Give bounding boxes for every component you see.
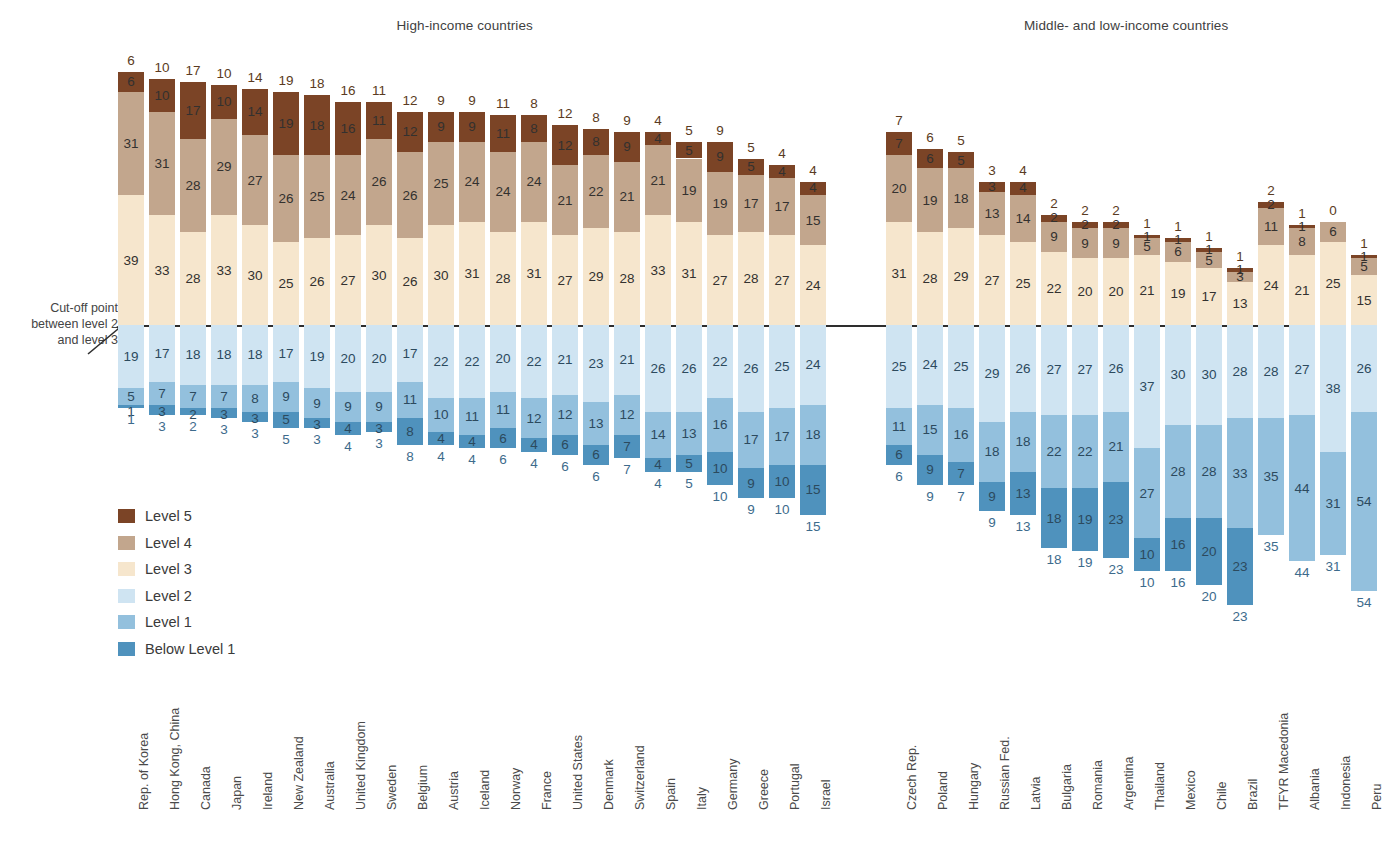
bar-bottom-value: 23 <box>1103 562 1129 577</box>
legend-item-l0[interactable]: Below Level 1 <box>118 636 235 663</box>
bar-segment-l5: 5 <box>676 142 702 159</box>
bar-top-value: 1 <box>1165 219 1191 234</box>
bar-segment-l5: 19 <box>273 92 299 155</box>
segment-value: 21 <box>1103 440 1129 454</box>
bar-segment-l0: 16 <box>1165 518 1191 571</box>
segment-value: 16 <box>335 122 361 136</box>
bar-segment-l2: 17 <box>273 325 299 382</box>
segment-value: 4 <box>459 435 485 449</box>
segment-value: 1 <box>1227 263 1253 277</box>
bar-segment-l0: 4 <box>428 432 454 445</box>
bar-segment-l0: 3 <box>366 422 392 432</box>
country-label: Hungary <box>967 763 981 810</box>
bar-segment-l4: 24 <box>459 142 485 222</box>
segment-value: 22 <box>1041 445 1067 459</box>
segment-value: 3 <box>149 405 175 419</box>
segment-value: 9 <box>1103 237 1129 251</box>
bar-segment-l2: 26 <box>1351 325 1377 412</box>
country-label: Belgium <box>416 765 430 810</box>
bar-segment-l4: 24 <box>521 142 547 222</box>
segment-value: 20 <box>366 352 392 366</box>
segment-value: 6 <box>583 448 609 462</box>
segment-value: 28 <box>180 272 206 286</box>
bar-segment-l0: 23 <box>1103 482 1129 559</box>
segment-value: 4 <box>1010 181 1036 195</box>
bar-segment-l2: 18 <box>180 325 206 385</box>
bar-segment-l4: 29 <box>211 119 237 216</box>
bar-bottom-value: 4 <box>335 439 361 454</box>
country-label: Israel <box>819 779 833 810</box>
bar-segment-l3: 25 <box>1010 242 1036 325</box>
segment-value: 25 <box>304 190 330 204</box>
segment-value: 18 <box>304 119 330 133</box>
bar-top-value: 9 <box>459 93 485 108</box>
bar-segment-l5: 5 <box>948 152 974 169</box>
bar-segment-l0: 4 <box>335 422 361 435</box>
bar-segment-l3: 29 <box>583 228 609 325</box>
bar-segment-l3: 27 <box>707 235 733 325</box>
bar-segment-l5: 11 <box>366 102 392 139</box>
country-label: Italy <box>695 787 709 810</box>
segment-value: 9 <box>1072 237 1098 251</box>
segment-value: 26 <box>397 275 423 289</box>
bar-segment-l3: 22 <box>1041 252 1067 325</box>
bar-segment-l2: 26 <box>1103 325 1129 412</box>
segment-value: 4 <box>769 165 795 179</box>
segment-value: 28 <box>1227 365 1253 379</box>
segment-value: 54 <box>1351 495 1377 509</box>
bar-top-value: 4 <box>800 163 826 178</box>
legend-swatch-icon <box>118 509 135 523</box>
country-label: Czech Rep. <box>905 745 919 810</box>
country-label: Sweden <box>385 765 399 810</box>
bar-segment-l3: 25 <box>1320 242 1346 325</box>
bar-segment-l2: 22 <box>428 325 454 398</box>
segment-value: 16 <box>948 428 974 442</box>
bar-top-value: 14 <box>242 70 268 85</box>
bar-segment-l0: 6 <box>490 428 516 448</box>
bar-segment-l3: 31 <box>676 222 702 325</box>
segment-value: 27 <box>1289 363 1315 377</box>
segment-value: 12 <box>552 408 578 422</box>
bar-segment-l1: 15 <box>917 405 943 455</box>
country-label: Poland <box>936 771 950 810</box>
bar-segment-l4: 31 <box>149 112 175 215</box>
bar-segment-l1: 44 <box>1289 415 1315 562</box>
bar-segment-l3: 31 <box>459 222 485 325</box>
bar-segment-l3: 31 <box>886 222 912 325</box>
legend-swatch-icon <box>118 562 135 576</box>
bar-bottom-value: 4 <box>645 476 671 491</box>
bar-segment-l2: 25 <box>769 325 795 408</box>
bar-segment-l5: 9 <box>614 132 640 162</box>
segment-value: 5 <box>738 160 764 174</box>
legend-item-l5[interactable]: Level 5 <box>118 503 235 530</box>
legend-item-l4[interactable]: Level 4 <box>118 530 235 557</box>
bar-segment-l3: 25 <box>273 242 299 325</box>
segment-value: 6 <box>886 448 912 462</box>
bar-bottom-value: 10 <box>769 502 795 517</box>
bar-bottom-value: 4 <box>521 456 547 471</box>
bar-segment-l0: 3 <box>242 412 268 422</box>
bar-bottom-value: 3 <box>242 426 268 441</box>
segment-value: 4 <box>645 132 671 146</box>
bar-segment-l2: 25 <box>886 325 912 408</box>
segment-value: 23 <box>1227 560 1253 574</box>
segment-value: 10 <box>211 95 237 109</box>
segment-value: 24 <box>521 175 547 189</box>
bar-bottom-value: 10 <box>707 489 733 504</box>
segment-value: 19 <box>707 197 733 211</box>
bar-segment-l5: 14 <box>242 89 268 136</box>
bar-segment-l1: 5 <box>118 388 144 405</box>
country-label: Austria <box>447 771 461 810</box>
legend-item-l1[interactable]: Level 1 <box>118 609 235 636</box>
legend-item-l3[interactable]: Level 3 <box>118 556 235 583</box>
bar-segment-l0: 6 <box>583 445 609 465</box>
bar-segment-l4: 24 <box>335 155 361 235</box>
legend-item-l2[interactable]: Level 2 <box>118 583 235 610</box>
bar-segment-l2: 27 <box>1041 325 1067 415</box>
bar-segment-l5: 1 <box>1196 248 1222 251</box>
bar-bottom-value: 7 <box>614 462 640 477</box>
segment-value: 28 <box>490 272 516 286</box>
bar-segment-l0: 20 <box>1196 518 1222 585</box>
bar-segment-l5: 18 <box>304 95 330 155</box>
segment-value: 44 <box>1289 482 1315 496</box>
